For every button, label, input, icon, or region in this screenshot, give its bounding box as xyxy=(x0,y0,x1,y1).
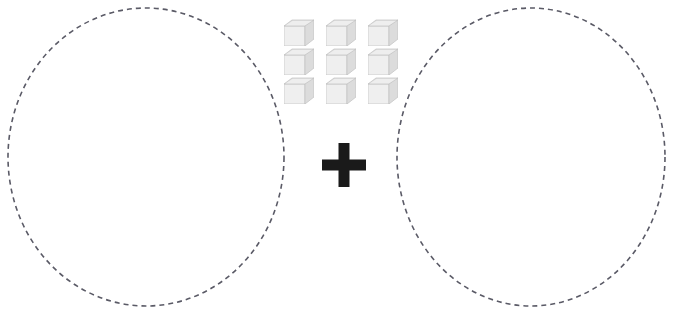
cube-block[interactable] xyxy=(284,18,314,46)
set-circle-right[interactable] xyxy=(397,8,665,306)
cube-face-front xyxy=(326,55,347,75)
cube-face-front xyxy=(368,55,389,75)
cube-block[interactable] xyxy=(368,18,398,46)
plus-operator-icon xyxy=(322,143,366,187)
cube-block[interactable] xyxy=(368,47,398,75)
cube-face-front xyxy=(284,84,305,104)
cube-block[interactable] xyxy=(284,76,314,104)
cube-block[interactable] xyxy=(368,76,398,104)
worksheet-canvas xyxy=(0,0,674,314)
cube-face-front xyxy=(368,84,389,104)
set-circle-left[interactable] xyxy=(8,8,284,306)
cube-face-front xyxy=(284,26,305,46)
cube-block[interactable] xyxy=(326,47,356,75)
cube-face-front xyxy=(368,26,389,46)
cube-block[interactable] xyxy=(326,76,356,104)
cube-face-front xyxy=(284,55,305,75)
plus-horizontal-arm xyxy=(322,160,366,171)
cube-face-front xyxy=(326,26,347,46)
cube-grid[interactable] xyxy=(284,18,398,104)
cube-block[interactable] xyxy=(326,18,356,46)
cube-block[interactable] xyxy=(284,47,314,75)
cube-face-front xyxy=(326,84,347,104)
